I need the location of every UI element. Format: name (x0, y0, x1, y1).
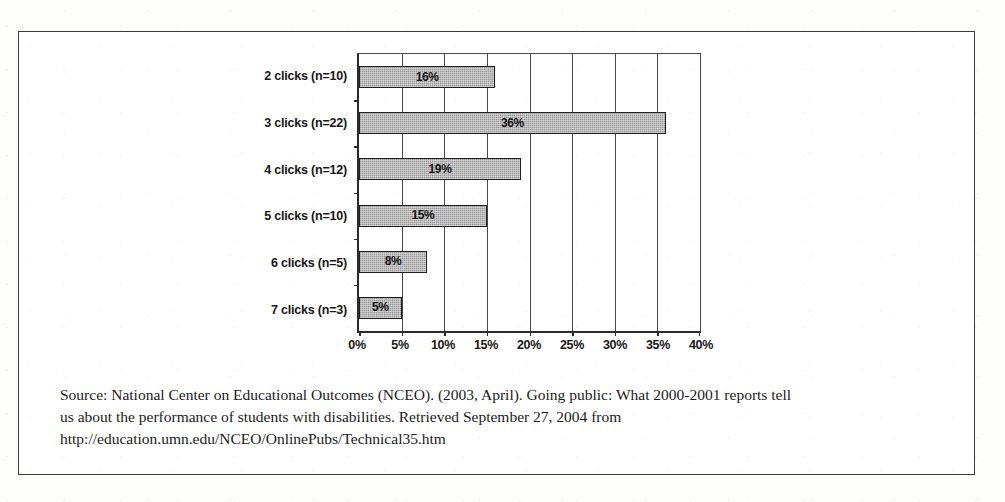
bar: 8% (359, 251, 427, 273)
axis-tick (444, 331, 446, 336)
x-tick-label: 15% (474, 338, 498, 352)
scanned-page: 2 clicks (n=10) 3 clicks (n=22) 4 clicks… (0, 0, 1005, 502)
axis-tick (487, 331, 489, 336)
category-label: 2 clicks (n=10) (229, 53, 354, 100)
axis-tick (530, 331, 532, 336)
bar: 5% (359, 297, 402, 319)
bar-value-label: 36% (501, 116, 524, 130)
axis-tick (699, 331, 701, 336)
bar-series: 16% 36% 19% 15 (359, 54, 700, 331)
bar-row: 36% (359, 100, 700, 146)
category-label: 7 clicks (n=3) (229, 286, 354, 333)
bar-row: 8% (359, 239, 700, 285)
x-tick-label: 20% (517, 338, 541, 352)
bar-row: 5% (359, 285, 700, 331)
bar-value-label: 15% (411, 208, 434, 222)
bar: 19% (359, 158, 521, 180)
plot-area: 16% 36% 19% 15 (357, 53, 701, 333)
bar: 16% (359, 66, 495, 88)
x-tick-label: 5% (391, 338, 408, 352)
category-label: 4 clicks (n=12) (229, 146, 354, 193)
source-line: us about the performance of students wit… (60, 406, 940, 428)
source-line: Source: National Center on Educational O… (60, 384, 940, 406)
bar: 36% (359, 112, 666, 134)
axis-tick (657, 331, 659, 336)
x-tick-label: 10% (431, 338, 455, 352)
bar-value-label: 5% (372, 300, 389, 314)
x-axis-labels: 0% 5% 10% 15% 20% 25% 30% 35% 40% (357, 338, 701, 360)
x-tick-label: 40% (689, 338, 713, 352)
bar-row: 19% (359, 146, 700, 192)
bar-row: 16% (359, 54, 700, 100)
source-line: http://education.umn.edu/NCEO/OnlinePubs… (60, 428, 940, 450)
axis-tick (402, 331, 404, 336)
axis-tick (359, 331, 361, 336)
x-tick-label: 25% (560, 338, 584, 352)
source-citation: Source: National Center on Educational O… (60, 384, 940, 450)
x-tick-label: 35% (646, 338, 670, 352)
bar: 15% (359, 205, 487, 227)
category-label: 5 clicks (n=10) (229, 193, 354, 240)
bar-value-label: 19% (428, 162, 451, 176)
bar-value-label: 16% (416, 70, 439, 84)
figure-frame: 2 clicks (n=10) 3 clicks (n=22) 4 clicks… (18, 31, 975, 475)
bar-chart: 2 clicks (n=10) 3 clicks (n=22) 4 clicks… (19, 32, 976, 362)
bar-value-label: 8% (385, 254, 402, 268)
category-axis: 2 clicks (n=10) 3 clicks (n=22) 4 clicks… (229, 53, 354, 333)
category-label: 6 clicks (n=5) (229, 240, 354, 287)
bar-row: 15% (359, 193, 700, 239)
x-tick-label: 30% (603, 338, 627, 352)
x-tick-label: 0% (348, 338, 365, 352)
axis-tick (615, 331, 617, 336)
axis-tick (572, 331, 574, 336)
category-label: 3 clicks (n=22) (229, 100, 354, 147)
